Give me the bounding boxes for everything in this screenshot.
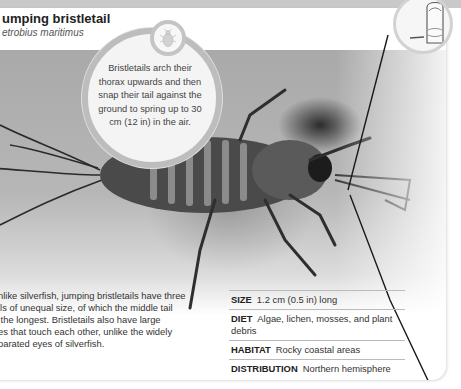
callout-badge [150,20,186,56]
fact-value: Rocky coastal areas [276,344,360,355]
description-line: es that touch each other, unlike the wid… [0,326,198,338]
fact-size: SIZE1.2 cm (0.5 in) long [229,290,405,309]
top-band [0,0,461,8]
fact-value: Northern hemisphere [303,363,391,374]
description-line: ils of unequal size, of which the middle… [0,302,198,314]
fact-label: HABITAT [231,344,271,355]
species-title: umping bristletail [2,11,110,26]
fact-value: Algae, lichen, mosses, and plant debris [231,313,392,336]
facts-panel: SIZE1.2 cm (0.5 in) long DIETAlgae, lich… [229,290,405,378]
description-line: parated eyes of silverfish. [0,338,198,350]
description-line: the longest. Bristletails also have larg… [0,314,198,326]
fact-value: 1.2 cm (0.5 in) long [257,294,337,305]
fact-label: DISTRIBUTION [231,363,298,374]
callout-text: Bristletails arch their thorax upwards a… [96,62,204,130]
thumb-scale-icon [396,0,450,51]
description-text: nlike silverfish, jumping bristletails h… [0,290,198,350]
bug-icon [159,28,177,48]
fact-distribution: DISTRIBUTIONNorthern hemisphere [229,359,405,378]
fact-label: DIET [231,313,252,324]
fact-diet: DIETAlgae, lichen, mosses, and plant deb… [229,309,405,340]
fact-habitat: HABITATRocky coastal areas [229,340,405,359]
latin-name: etrobius maritimus [2,27,84,38]
fact-label: SIZE [231,294,252,305]
description-line: nlike silverfish, jumping bristletails h… [0,290,198,302]
